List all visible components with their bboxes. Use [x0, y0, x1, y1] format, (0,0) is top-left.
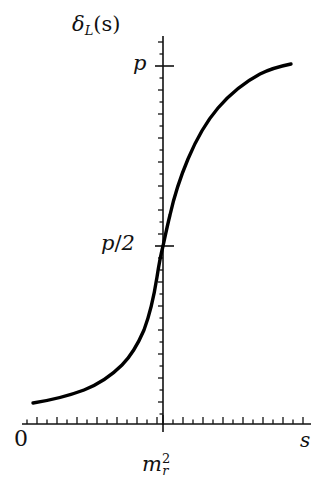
p-half-denominator: 2 [122, 231, 135, 255]
y-axis-title-argument: (s) [93, 12, 120, 36]
p-half-numerator: p [101, 231, 114, 255]
p-half-slash: / [114, 231, 121, 255]
x-axis-ticks [27, 417, 303, 424]
resonance-mass-subscript: r [162, 463, 168, 478]
x-axis-title: s [300, 430, 310, 450]
x-tick-label-resonance-mass: m2r [142, 452, 168, 477]
y-axis-title-subscript: L [85, 23, 94, 38]
plot-canvas [0, 0, 330, 498]
y-tick-label-p: p [133, 53, 146, 74]
y-tick-label-p-half: p/2 [101, 233, 135, 254]
y-axis-title: δL(s) [72, 14, 120, 37]
resonance-mass-base: m [142, 452, 162, 476]
x-axis-origin-label: 0 [14, 428, 28, 450]
y-axis-title-delta: δ [72, 12, 85, 36]
phase-shift-figure: δL(s) p p/2 0 s m2r [0, 0, 330, 498]
